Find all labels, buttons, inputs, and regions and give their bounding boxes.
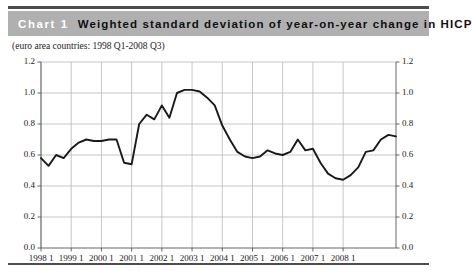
x-axis-tick-label: 2000 1 — [89, 253, 114, 263]
x-axis-tick-label: 2005 1 — [240, 253, 265, 263]
x-axis-tick-label: 2002 1 — [149, 253, 174, 263]
x-axis-tick-label: 2003 1 — [180, 253, 205, 263]
y-axis-tick-label-right: 1.2 — [402, 56, 428, 66]
bottom-divider — [8, 263, 429, 265]
y-axis-tick-label-right: 0.2 — [402, 211, 428, 221]
y-axis-tick-label-right: 0.4 — [402, 180, 428, 190]
tick-marks — [38, 62, 400, 252]
y-axis-tick-label: 0.8 — [9, 118, 35, 128]
y-axis-tick-label-right: 0.0 — [402, 242, 428, 252]
x-axis-tick-label: 2007 1 — [301, 253, 326, 263]
y-axis-tick-label: 0.2 — [9, 211, 35, 221]
x-axis-tick-label: 2006 1 — [270, 253, 295, 263]
y-axis-tick-label-right: 0.8 — [402, 118, 428, 128]
y-axis-tick-label: 1.0 — [9, 87, 35, 97]
y-axis-tick-label-right: 0.6 — [402, 149, 428, 159]
grid-lines — [41, 62, 396, 248]
x-axis-tick-label: 2004 1 — [210, 253, 235, 263]
y-axis-tick-label: 0.4 — [9, 180, 35, 190]
x-axis-tick-label: 1999 1 — [59, 253, 84, 263]
y-axis-tick-label: 0.6 — [9, 149, 35, 159]
y-axis-tick-label: 0.0 — [9, 242, 35, 252]
x-axis-tick-label: 2008 1 — [331, 253, 356, 263]
x-axis-tick-label: 1998 1 — [29, 253, 54, 263]
y-axis-tick-label-right: 1.0 — [402, 87, 428, 97]
x-axis-tick-label: 2001 1 — [119, 253, 144, 263]
y-axis-tick-label: 1.2 — [9, 56, 35, 66]
